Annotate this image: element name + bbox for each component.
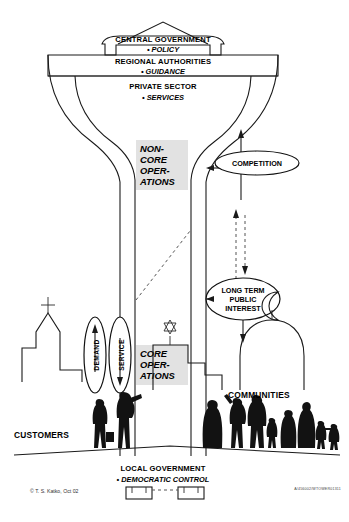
core-operations-line-3: ATIONS (139, 370, 175, 381)
non-core-operations-line-4: ATIONS (139, 176, 175, 187)
service-label: SERVICE (118, 339, 125, 371)
reference-code: A/456002/WTOWER01311 (294, 487, 341, 491)
local-government-label: LOCAL GOVERNMENT (121, 464, 206, 473)
regional-authorities-bullet: • GUIDANCE (141, 67, 186, 76)
diagram-canvas: CENTRAL GOVERNMENT • POLICY REGIONAL AUT… (0, 0, 349, 522)
private-sector-bullet: • SERVICES (142, 93, 184, 102)
central-government-label: CENTRAL GOVERNMENT (115, 35, 211, 44)
ltpi-line-1: LONG TERM (221, 286, 264, 295)
tower-footings (126, 487, 204, 499)
ltpi-line-3: INTEREST (225, 304, 261, 313)
private-sector-label: PRIVATE SECTOR (129, 82, 197, 91)
core-operations-line-1: CORE (140, 348, 168, 359)
tension-down-arrow-head (242, 266, 248, 275)
customers-label: CUSTOMERS (14, 430, 69, 440)
non-core-operations-line-2: CORE (140, 154, 168, 165)
regional-authorities-label: REGIONAL AUTHORITIES (115, 57, 211, 66)
communities-label: COMMUNITIES (228, 390, 290, 400)
ltpi-line-2: PUBLIC (230, 295, 257, 304)
local-government-bullet: • DEMOCRATIC CONTROL (117, 475, 210, 484)
star-of-david-icon (164, 320, 176, 334)
core-operations-line-2: OPER- (140, 359, 170, 370)
non-core-operations-line-3: OPER- (140, 165, 170, 176)
shaft-diagonal-divider (136, 231, 190, 300)
tension-up-arrow-head (233, 209, 239, 218)
non-core-operations-line-1: NON- (140, 143, 164, 154)
building-church (22, 297, 82, 382)
tension-dashed-arrows (233, 209, 248, 285)
competition-up-arrow-head (238, 129, 244, 138)
central-government-bullet: • POLICY (147, 45, 180, 54)
demand-label: DEMAND (93, 339, 100, 370)
competition-label: COMPETITION (232, 159, 282, 168)
silhouette-group-communities (203, 394, 340, 450)
credit-text: © T. S. Katko, Oct 02 (30, 488, 79, 494)
cross-icon (41, 297, 55, 313)
governance-tower-figure: CENTRAL GOVERNMENT • POLICY REGIONAL AUT… (0, 0, 349, 522)
